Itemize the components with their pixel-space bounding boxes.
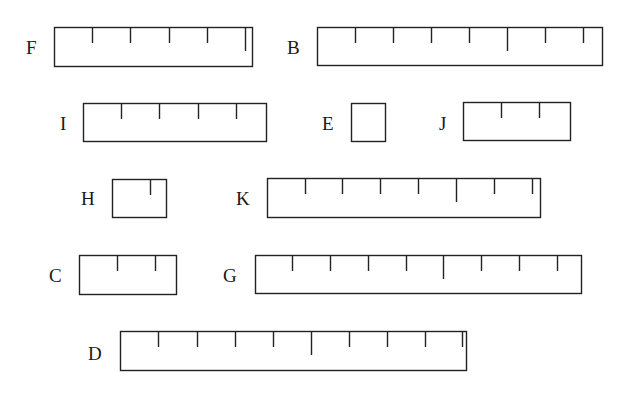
ruler-box [55,28,253,67]
ruler-e [352,104,386,142]
ruler-c [80,256,177,295]
ruler-label: H [81,189,95,208]
ruler-f [55,28,253,67]
ruler-label: C [49,266,62,285]
ruler-label: B [287,38,300,57]
ruler-box [318,28,603,66]
ruler-box [268,179,541,218]
ruler-d [121,332,467,371]
ruler-label: K [236,189,250,208]
ruler-box [121,332,467,371]
ruler-label: G [223,266,237,285]
ruler-label: E [322,114,334,133]
ruler-h [113,180,167,218]
ruler-label: I [60,114,66,133]
ruler-label: J [439,114,446,133]
ruler-diagram: FBIEJHKCGD [0,0,626,397]
ruler-box [80,256,177,295]
ruler-box [464,103,571,141]
ruler-box [352,104,386,142]
ruler-g [256,256,582,294]
ruler-i [84,104,267,142]
ruler-label: D [88,344,102,363]
ruler-label: F [26,38,37,57]
ruler-b [318,28,603,66]
ruler-k [268,179,541,218]
ruler-box [113,180,167,218]
ruler-j [464,103,571,141]
ruler-box [84,104,267,142]
ruler-box [256,256,582,294]
